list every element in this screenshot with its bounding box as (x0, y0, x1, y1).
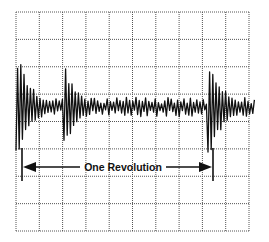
right-arrowhead-icon (199, 162, 212, 172)
left-arrowhead-icon (23, 162, 36, 172)
vibration-waveform-diagram: One Revolution (0, 0, 269, 242)
one-revolution-label: One Revolution (84, 161, 162, 173)
vibration-trace (16, 65, 254, 153)
